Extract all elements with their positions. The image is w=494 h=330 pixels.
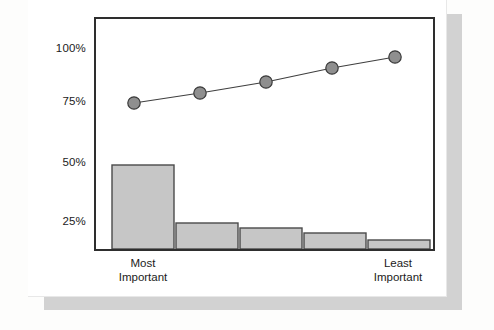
x-tick-label-most-line1: Most <box>131 257 156 269</box>
bar-4 <box>304 233 366 249</box>
x-axis: Most Important Least Important <box>28 251 446 296</box>
cumulative-marker-4 <box>326 62 338 74</box>
bar-1 <box>112 165 174 249</box>
plot-frame <box>94 17 435 251</box>
x-tick-label-least-line1: Least <box>384 257 412 269</box>
plot-svg <box>96 19 433 249</box>
bar-series <box>112 165 430 249</box>
x-tick-label-most-line2: Important <box>119 270 168 284</box>
screenshot-root: 100% 75% 50% 25% <box>0 0 494 330</box>
bar-5 <box>368 240 430 249</box>
y-tick-label-100: 100% <box>56 42 86 54</box>
cumulative-marker-5 <box>389 51 401 63</box>
x-tick-label-least-line2: Important <box>374 270 423 284</box>
cumulative-marker-3 <box>260 76 272 88</box>
cumulative-line-series <box>128 51 401 109</box>
plot-inner <box>96 19 433 249</box>
bar-2 <box>176 223 238 249</box>
x-tick-label-most-important: Most Important <box>119 256 168 284</box>
y-tick-label-75: 75% <box>62 95 86 107</box>
cumulative-marker-1 <box>128 97 140 109</box>
cumulative-marker-2 <box>194 87 206 99</box>
x-tick-label-least-important: Least Important <box>374 256 423 284</box>
y-tick-label-50: 50% <box>62 156 86 168</box>
bar-3 <box>240 228 302 249</box>
pareto-chart: 100% 75% 50% 25% <box>28 0 446 296</box>
y-tick-label-25: 25% <box>62 215 86 227</box>
